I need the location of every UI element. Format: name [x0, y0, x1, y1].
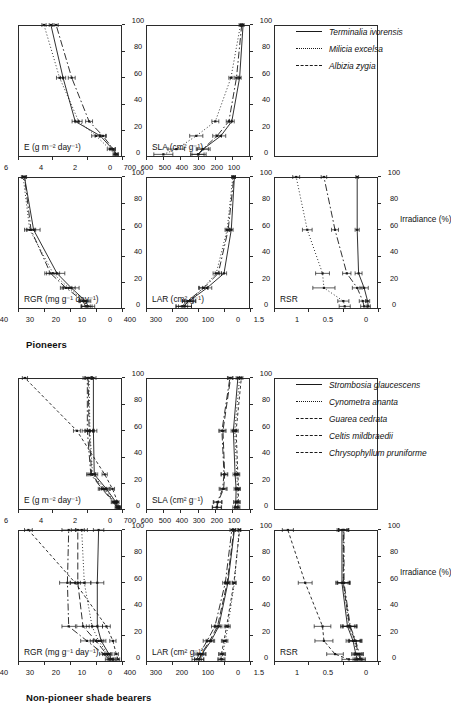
y-tick-label: 1 [269, 668, 299, 677]
y-tick [52, 157, 53, 160]
y-tick [180, 510, 181, 513]
x-tick [122, 177, 125, 178]
series-milicia-excelsa [21, 175, 92, 308]
y-tick-label: 6 [0, 163, 8, 172]
legend-nonpioneers: Strombosia glaucescensCynometra anantaGu… [274, 378, 378, 510]
legend-key-dotted [296, 401, 322, 402]
y-tick-label: 6 [0, 516, 8, 525]
legend-label: Strombosia glaucescens [329, 380, 420, 390]
panel-pioneers-rsr: RSR02040608010000.511.5Irradiance (%) [274, 177, 378, 309]
y-tick [215, 157, 216, 160]
x-tick [250, 457, 253, 458]
y-tick [18, 309, 19, 312]
y-tick [122, 662, 123, 665]
series-plot [274, 530, 378, 662]
series-plot [18, 177, 122, 309]
series-terminalia-ivorensis [49, 23, 118, 156]
y-tick [198, 510, 199, 513]
x-tick [122, 582, 125, 583]
y-tick-label: 1.5 [234, 668, 264, 677]
x-tick-label: 100 [255, 521, 277, 530]
x-tick [250, 256, 253, 257]
y-tick [343, 662, 344, 665]
y-tick-label: 40 [0, 668, 8, 677]
x-tick [250, 104, 253, 105]
y-tick [172, 309, 173, 312]
y-tick [146, 157, 147, 160]
x-tick-label: 100 [127, 369, 149, 378]
x-tick [250, 25, 253, 26]
series-albizia-zygia [321, 175, 367, 308]
series-albizia-zygia [23, 175, 90, 308]
y-tick [250, 662, 251, 665]
legend-entries: Strombosia glaucescensCynometra anantaGu… [296, 376, 427, 461]
x-tick-label: 20 [383, 627, 405, 636]
x-tick [250, 229, 253, 230]
x-tick [122, 609, 125, 610]
x-tick [250, 203, 253, 204]
y-tick-label: 1.5 [234, 315, 264, 324]
y-tick [122, 157, 123, 160]
x-axis-title: Irradiance (%) [400, 568, 451, 577]
y-tick [180, 157, 181, 160]
legend-entries: Terminalia ivorensisMilicia excelsaAlbiz… [296, 23, 403, 74]
x-tick-label: 40 [383, 600, 405, 609]
legend-label: Milicia excelsa [329, 44, 383, 54]
y-tick [163, 510, 164, 513]
y-tick [96, 309, 97, 312]
x-tick [122, 51, 125, 52]
x-tick-label: 100 [255, 16, 277, 25]
panel-nonpioneers-lar: LAR (cm² g⁻¹)0204060801000100200300400 [146, 530, 250, 662]
legend-item: Celtis mildbraedii [296, 427, 427, 444]
x-tick [250, 404, 253, 405]
y-tick-label: 0.5 [303, 668, 333, 677]
panel-nonpioneers-rsr: RSR02040608010000.511.5Irradiance (%) [274, 530, 378, 662]
legend-label: Guarea cedrata [329, 414, 387, 424]
group-title-pioneers: Pioneers [26, 339, 67, 350]
legend-key-dotted [296, 48, 322, 49]
legend-item: Terminalia ivorensis [296, 23, 403, 40]
y-tick [274, 662, 275, 665]
x-tick-label: 100 [255, 369, 277, 378]
legend-item: Guarea cedrata [296, 410, 427, 427]
series-plot [18, 530, 122, 662]
y-tick [18, 510, 19, 513]
series-guarea-cedrata [25, 528, 120, 661]
x-tick [250, 556, 253, 557]
y-tick [198, 157, 199, 160]
legend-key-solid [296, 31, 322, 32]
y-tick-label: 4 [13, 516, 43, 525]
y-tick [224, 662, 225, 665]
legend-label: Celtis mildbraedii [329, 431, 393, 441]
x-tick [378, 282, 381, 283]
y-tick [198, 309, 199, 312]
group-nonpioneers: Non-pioneer shade bearersRGR (mg g⁻¹ day… [0, 353, 428, 706]
y-tick-label: 20 [30, 668, 60, 677]
y-tick [250, 157, 251, 160]
legend-item: Chrysophyllum pruniforme [296, 444, 427, 461]
x-tick [122, 282, 125, 283]
y-tick-label: 30 [4, 315, 34, 324]
series-albizia-zygia [192, 23, 243, 156]
x-tick [122, 77, 125, 78]
y-tick-label: 40 [0, 315, 8, 324]
legend-label: Chrysophyllum pruniforme [329, 448, 427, 458]
y-tick [232, 157, 233, 160]
series-terminalia-ivorensis [176, 175, 236, 308]
panel-pioneers-rgr: RGR (mg g⁻¹ day⁻¹)020406080100010203040 [18, 177, 122, 309]
x-tick [378, 256, 381, 257]
series-plot [146, 530, 250, 662]
y-tick-label: 100 [184, 315, 214, 324]
x-tick [250, 635, 253, 636]
series-albizia-zygia [176, 175, 235, 308]
x-tick [122, 457, 125, 458]
y-tick [308, 662, 309, 665]
y-tick-label: 1 [269, 315, 299, 324]
series-milicia-excelsa [293, 175, 351, 308]
y-tick-label: 2 [47, 516, 77, 525]
series-plot [274, 177, 378, 309]
x-tick [378, 203, 381, 204]
y-tick-label: 700 [106, 516, 136, 525]
x-tick-label: 100 [127, 16, 149, 25]
y-tick [163, 157, 164, 160]
